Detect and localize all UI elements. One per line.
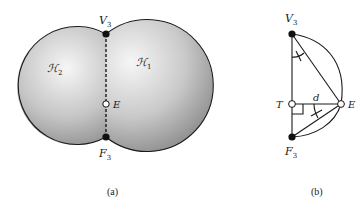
label-f3-b: F3 bbox=[284, 145, 297, 160]
point-e-a bbox=[103, 101, 109, 107]
label-d: d bbox=[313, 92, 319, 103]
label-v3-a: V3 bbox=[99, 14, 111, 29]
label-v3-b: V3 bbox=[285, 12, 297, 27]
segment-f3-e bbox=[292, 104, 341, 137]
point-f3-a bbox=[102, 133, 109, 140]
point-t-b bbox=[289, 101, 296, 108]
point-f3-b bbox=[288, 133, 295, 140]
label-e-b: E bbox=[347, 99, 356, 110]
label-e-a: E bbox=[112, 99, 121, 110]
panel-a: V3 F3 E ℋ2 ℋ1 (a) bbox=[17, 14, 213, 198]
point-v3-b bbox=[288, 30, 295, 37]
panel-b bbox=[292, 34, 342, 137]
panel-b-points: V3 F3 T E d (b) bbox=[276, 12, 356, 198]
angle-arc-e bbox=[314, 104, 318, 118]
caption-a: (a) bbox=[107, 186, 118, 198]
point-e-b bbox=[338, 101, 345, 108]
caption-b: (b) bbox=[311, 186, 323, 198]
label-t-b: T bbox=[276, 99, 284, 110]
label-f3-a: F3 bbox=[98, 147, 111, 162]
point-v3-a bbox=[102, 30, 109, 37]
figure-canvas: V3 F3 E ℋ2 ℋ1 (a) V3 F3 T E bbox=[0, 0, 357, 206]
